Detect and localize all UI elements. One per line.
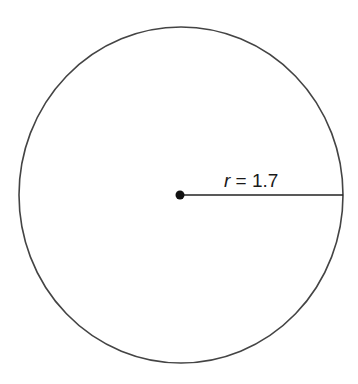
- radius-label: r = 1.7: [224, 170, 278, 191]
- radius-equals: =: [230, 170, 252, 191]
- radius-value: 1.7: [252, 170, 278, 191]
- center-point: [176, 191, 185, 200]
- circle-diagram: r = 1.7: [0, 0, 358, 384]
